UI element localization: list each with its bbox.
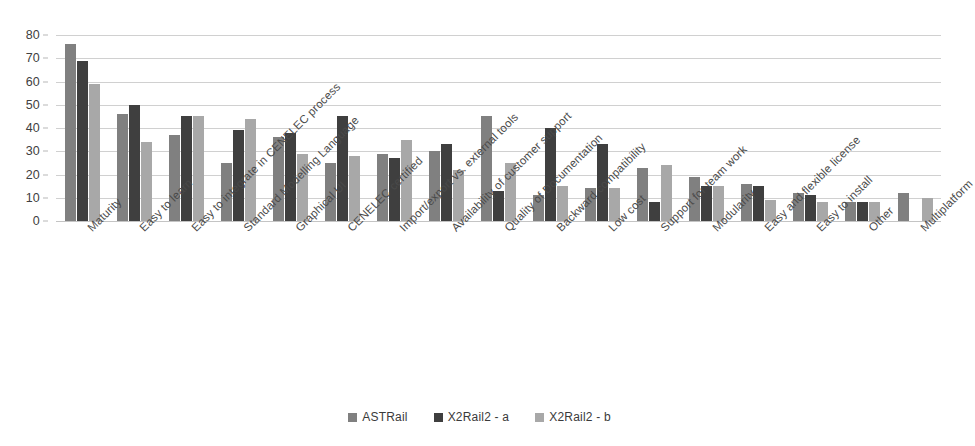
bar-group <box>108 35 160 221</box>
y-axis-tick-label: 60 <box>26 75 40 88</box>
bar-group <box>889 35 941 221</box>
bar <box>141 142 152 221</box>
bar <box>181 116 192 221</box>
y-axis: 80706050403020100 <box>0 35 48 221</box>
y-axis-tick-mark <box>43 151 48 152</box>
y-axis-tick-mark <box>43 197 48 198</box>
y-axis-tick-label: 20 <box>26 168 40 181</box>
y-axis-tick-label: 30 <box>26 145 40 158</box>
y-axis-tick-mark <box>43 174 48 175</box>
bar <box>77 61 88 221</box>
bar <box>649 202 660 221</box>
bar-group <box>629 35 681 221</box>
y-axis-tick-mark <box>43 81 48 82</box>
square-swatch-icon <box>348 413 357 422</box>
bar <box>898 193 909 221</box>
bar-group <box>56 35 108 221</box>
bar <box>857 202 868 221</box>
gridline <box>56 221 941 222</box>
x-axis-labels: MaturityEasy to learnEasy to integrate i… <box>56 224 941 374</box>
y-axis-tick-mark <box>43 35 48 36</box>
square-swatch-icon <box>434 413 443 422</box>
y-axis-tick-mark <box>43 58 48 59</box>
legend-label: X2Rail2 - a <box>448 410 510 424</box>
bar <box>65 44 76 221</box>
y-axis-tick-label: 80 <box>26 29 40 42</box>
y-axis-tick-label: 40 <box>26 122 40 135</box>
y-axis-tick-mark <box>43 104 48 105</box>
y-axis-tick-label: 70 <box>26 52 40 65</box>
y-axis-tick-label: 50 <box>26 99 40 112</box>
y-axis-tick-mark <box>43 128 48 129</box>
bar <box>89 84 100 221</box>
legend-label: ASTRail <box>362 410 407 424</box>
bar <box>805 195 816 221</box>
legend-item[interactable]: X2Rail2 - a <box>434 410 510 424</box>
square-swatch-icon <box>535 413 544 422</box>
legend-item[interactable]: X2Rail2 - b <box>535 410 611 424</box>
y-axis-tick-mark <box>43 221 48 222</box>
legend-label: X2Rail2 - b <box>549 410 611 424</box>
chart-legend: ASTRailX2Rail2 - aX2Rail2 - b <box>0 410 959 424</box>
y-axis-tick-label: 10 <box>26 192 40 205</box>
bar <box>129 105 140 221</box>
y-axis-tick-label: 0 <box>33 215 40 228</box>
bar <box>193 116 204 221</box>
legend-item[interactable]: ASTRail <box>348 410 407 424</box>
